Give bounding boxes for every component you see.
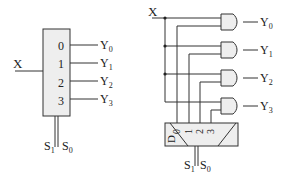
- demux-index-1: 1: [58, 57, 64, 71]
- decoder-select-label-s0: S0: [200, 158, 211, 174]
- decoder-label: D: [165, 135, 177, 143]
- demux-box: [43, 29, 70, 116]
- demux-output-label-3: Y3: [100, 92, 113, 108]
- demux-output-label-1: Y1: [100, 56, 113, 72]
- demux-index-0: 0: [58, 39, 64, 53]
- gate-output-label-3: Y3: [260, 99, 273, 115]
- gate-implementation-diagram: X Y0 Y1: [148, 4, 273, 174]
- junction-dot: [163, 16, 166, 19]
- decoder-index-1: 1: [183, 129, 194, 134]
- and-gate-2: [221, 70, 258, 86]
- decoder-select-label-s1: S1: [184, 158, 195, 174]
- gate-input-label: X: [148, 4, 158, 19]
- and-gate-1: [221, 42, 258, 58]
- decoder-index-3: 3: [205, 129, 216, 134]
- and-gate-3: [221, 98, 258, 114]
- demux-select-label-s1: S1: [44, 139, 55, 155]
- diagram-canvas: X 0 1 2 3 Y0 Y1 Y2 Y3 S1 S0 X: [0, 0, 281, 180]
- demux-input-label: X: [13, 56, 23, 71]
- demux-output-label-0: Y0: [100, 38, 113, 54]
- demux-select-label-s0: S0: [62, 139, 73, 155]
- decoder-line-3: [211, 110, 221, 123]
- decoder-index-0: 0: [171, 129, 182, 134]
- decoder-index-2: 2: [194, 129, 205, 134]
- demux-index-2: 2: [58, 76, 64, 90]
- demux-block-diagram: X 0 1 2 3 Y0 Y1 Y2 Y3 S1 S0: [13, 29, 113, 155]
- gate-output-label-2: Y2: [260, 71, 273, 87]
- junction-dot: [163, 72, 166, 75]
- junction-dot: [163, 44, 166, 47]
- demux-index-3: 3: [58, 94, 64, 108]
- decoder-block: D 0 1 2 3: [165, 123, 238, 146]
- demux-output-label-2: Y2: [100, 74, 113, 90]
- gate-output-label-0: Y0: [260, 15, 273, 31]
- gate-output-label-1: Y1: [260, 43, 273, 59]
- decoder-line-1: [189, 54, 221, 123]
- and-gate-0: [221, 14, 258, 30]
